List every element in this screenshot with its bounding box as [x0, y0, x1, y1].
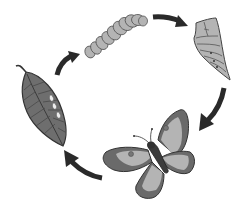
arrow-larva-to-pupa [153, 15, 188, 27]
butterfly-life-cycle-diagram [0, 0, 247, 211]
butterfly [103, 110, 194, 199]
caterpillar [83, 13, 147, 60]
arrow-adult-to-eggs [64, 150, 102, 178]
leaf-with-eggs [16, 65, 66, 146]
arrow-pupa-to-adult [199, 88, 224, 131]
arrow-eggs-to-larva [57, 51, 80, 75]
chrysalis [194, 18, 230, 80]
